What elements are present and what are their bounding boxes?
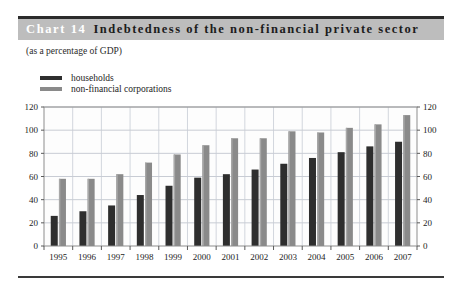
x-axis-tick-label: 1997 [107,252,126,262]
y-axis-tick-left: 20 [29,218,39,228]
x-axis-tick-label: 1995 [49,252,68,262]
y-axis-tick-left: 80 [29,149,39,159]
x-axis-tick-label: 2002 [250,252,268,262]
x-axis-tick-label: 2000 [193,252,212,262]
y-axis-tick-right: 80 [423,149,433,159]
y-axis-tick-left: 40 [29,195,39,205]
footer-rule [18,276,444,278]
x-axis-tick-label: 2003 [279,252,298,262]
x-axis-tick-label: 2007 [394,252,413,262]
x-axis-tick-label: 1996 [78,252,97,262]
y-axis-tick-right: 0 [423,241,428,251]
y-axis-tick-right: 20 [423,218,433,228]
x-axis-tick-label: 2005 [336,252,355,262]
plot-area: 0020204040606080801001001201201995199619… [0,0,461,290]
x-axis-tick-label: 1999 [164,252,183,262]
x-axis-tick-label: 2001 [222,252,240,262]
y-axis-tick-right: 40 [423,195,433,205]
y-axis-tick-left: 60 [29,172,39,182]
x-axis-tick-label: 2004 [308,252,327,262]
y-axis-tick-left: 120 [25,102,39,112]
bar-chart-svg: 0020204040606080801001001201201995199619… [0,0,461,290]
y-axis-tick-right: 60 [423,172,433,182]
x-axis-tick-label: 1998 [135,252,154,262]
y-axis-tick-right: 120 [423,102,437,112]
chart-figure: Chart 14 Indebtedness of the non-financi… [0,0,461,290]
y-axis-tick-left: 100 [25,125,39,135]
y-axis-tick-right: 100 [423,125,437,135]
x-axis-tick-label: 2006 [365,252,384,262]
y-axis-tick-left: 0 [34,241,39,251]
